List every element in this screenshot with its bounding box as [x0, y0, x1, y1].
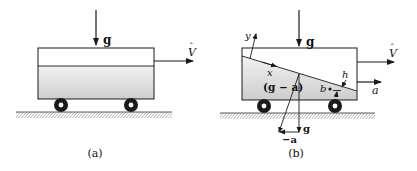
panel-a: g V ˆ (a) [16, 10, 197, 160]
gravity-label: g [306, 35, 315, 49]
tank-truck-diagram: g V ˆ (a) g x [0, 0, 417, 171]
velocity-hat: ˆ [189, 42, 194, 52]
point-b-dot [328, 87, 331, 90]
gravity-component-label: g [303, 123, 310, 134]
wheel-icon [328, 99, 342, 113]
point-b-label: b [320, 83, 326, 94]
y-axis-arrow [250, 34, 256, 59]
liquid-fill [38, 66, 154, 99]
depth-arrow [342, 80, 346, 87]
panel-b-caption: (b) [288, 147, 304, 160]
y-axis-label: y [244, 30, 251, 41]
panel-b: g x y (g − a) g −a h b V ˆ a [220, 10, 398, 160]
velocity-hat: ˆ [390, 43, 395, 53]
wheel-icon [124, 98, 138, 112]
liquid-fill [242, 56, 357, 100]
ground-hatch [220, 113, 375, 119]
neg-accel-label: −a [282, 134, 297, 145]
x-axis-label: x [267, 67, 273, 78]
resultant-label: (g − a) [263, 81, 303, 93]
wheel-icon [54, 98, 68, 112]
acceleration-label: a [372, 84, 379, 97]
depth-label: h [342, 69, 348, 80]
ground-hatch [16, 112, 172, 118]
panel-a-caption: (a) [87, 147, 102, 160]
wheel-icon [257, 99, 271, 113]
gravity-label: g [103, 33, 112, 47]
